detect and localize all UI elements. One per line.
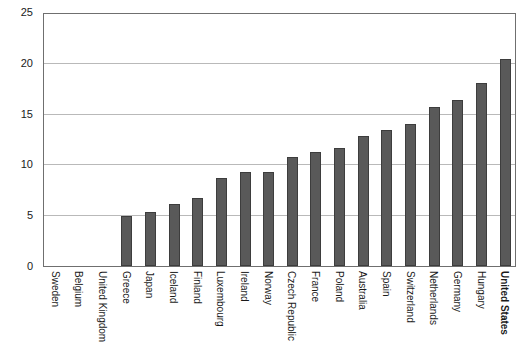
x-tick-label-slot: Iceland xyxy=(161,268,185,360)
y-tick-label: 15 xyxy=(0,109,33,120)
bar xyxy=(192,198,203,266)
x-tick-label: Ireland xyxy=(239,271,249,302)
x-tick-label: Spain xyxy=(381,271,391,297)
x-tick-label: United States xyxy=(499,271,509,335)
x-tick-label-slot: Finland xyxy=(185,268,209,360)
gridline-20 xyxy=(44,63,515,64)
x-tick-label: Hungary xyxy=(476,271,486,309)
x-tick-label: Germany xyxy=(452,271,462,312)
x-tick-label: United Kingdom xyxy=(97,271,107,342)
x-axis-tick-labels: SwedenBelgiumUnited KingdomGreeceJapanIc… xyxy=(43,268,516,360)
bar xyxy=(240,172,251,266)
bar xyxy=(169,204,180,266)
x-tick-label: Netherlands xyxy=(428,271,438,325)
y-tick-label: 25 xyxy=(0,7,33,18)
y-axis-tick-labels: 0510152025 xyxy=(0,0,38,360)
x-tick-label: Finland xyxy=(192,271,202,304)
bar xyxy=(476,83,487,266)
x-tick-label-slot: Netherlands xyxy=(421,268,445,360)
bar-chart: 0510152025 SwedenBelgiumUnited KingdomGr… xyxy=(0,0,526,360)
x-tick-label-slot: Czech Republic xyxy=(280,268,304,360)
x-tick-label-slot: Switzerland xyxy=(398,268,422,360)
bar xyxy=(216,178,227,266)
x-tick-label-slot: United Kingdom xyxy=(90,268,114,360)
x-tick-label: Japan xyxy=(144,271,154,298)
y-tick-label: 5 xyxy=(0,210,33,221)
bar xyxy=(121,216,132,266)
gridline-5 xyxy=(44,215,515,216)
bar xyxy=(145,212,156,266)
gridline-10 xyxy=(44,164,515,165)
x-tick-label-slot: France xyxy=(303,268,327,360)
x-tick-label-slot: Norway xyxy=(256,268,280,360)
x-tick-label: Greece xyxy=(121,271,131,304)
x-tick-label-slot: Luxembourg xyxy=(209,268,233,360)
y-tick-label: 10 xyxy=(0,159,33,170)
x-tick-label: Luxembourg xyxy=(215,271,225,327)
x-tick-label: Iceland xyxy=(168,271,178,303)
y-tick-label: 20 xyxy=(0,58,33,69)
bar xyxy=(429,107,440,267)
x-tick-label: Norway xyxy=(263,271,273,305)
bar xyxy=(381,130,392,266)
x-tick-label-slot: Ireland xyxy=(232,268,256,360)
x-tick-label-slot: Japan xyxy=(138,268,162,360)
x-tick-label: France xyxy=(310,271,320,302)
bar xyxy=(310,152,321,266)
x-tick-label-slot: Belgium xyxy=(67,268,91,360)
bar xyxy=(358,136,369,266)
bar xyxy=(405,124,416,266)
x-tick-label-slot: Greece xyxy=(114,268,138,360)
bar xyxy=(263,172,274,266)
x-tick-label: Poland xyxy=(334,271,344,302)
bar xyxy=(500,59,511,266)
x-tick-label: Belgium xyxy=(73,271,83,307)
x-tick-label-slot: Sweden xyxy=(43,268,67,360)
bar xyxy=(334,148,345,266)
gridline-15 xyxy=(44,114,515,115)
x-tick-label-slot: Spain xyxy=(374,268,398,360)
bar xyxy=(287,157,298,266)
x-tick-label-slot: Hungary xyxy=(469,268,493,360)
x-tick-label-slot: Australia xyxy=(350,268,374,360)
x-tick-label-slot: United States xyxy=(492,268,516,360)
x-tick-label: Australia xyxy=(357,271,367,310)
plot-area xyxy=(43,13,516,267)
x-tick-label: Switzerland xyxy=(405,271,415,323)
x-tick-label: Sweden xyxy=(50,271,60,307)
x-tick-label-slot: Germany xyxy=(445,268,469,360)
bar xyxy=(452,100,463,266)
y-tick-label: 0 xyxy=(0,261,33,272)
x-tick-label-slot: Poland xyxy=(327,268,351,360)
x-tick-label: Czech Republic xyxy=(286,271,296,341)
